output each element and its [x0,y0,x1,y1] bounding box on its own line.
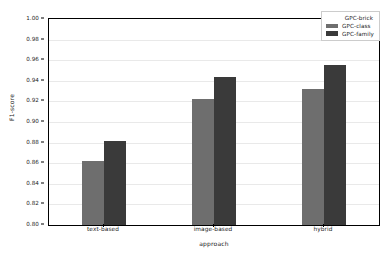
x-tick-mark [103,224,104,227]
x-axis-label: approach [48,240,380,247]
y-tick-label: 1.00 [26,15,39,21]
x-axis-ticks: text-basedimage-basedhybrid [48,226,380,238]
bar-gpc-class-hybrid [302,89,324,225]
y-tick-label: 0.86 [26,159,39,165]
plot-area [48,18,380,226]
y-tick-mark [41,59,44,60]
y-tick-mark [41,100,44,101]
x-tick-mark [323,224,324,227]
bar-gpc-class-image-based [192,99,214,225]
y-tick-label: 0.90 [26,118,39,124]
y-tick-label: 0.92 [26,97,39,103]
legend-label: GPC-class [342,23,370,29]
y-tick-label: 0.96 [26,56,39,62]
y-tick-label: 0.82 [26,200,39,206]
y-tick-mark [41,79,44,80]
legend-item-gpc-family: GPC-family [326,31,374,37]
bar-gpc-family-image-based [214,77,236,225]
y-tick-mark [41,203,44,204]
legend: GPC-brick GPC-classGPC-family [321,11,380,41]
bar-chart-figure: 0.800.820.840.860.880.900.920.940.960.98… [0,0,386,260]
y-tick-label: 0.94 [26,77,39,83]
legend-label: GPC-family [342,31,374,37]
y-tick-mark [41,38,44,39]
y-tick-mark [41,121,44,122]
bar-gpc-class-text-based [82,161,104,225]
legend-entries: GPC-classGPC-family [326,23,374,37]
legend-swatch-icon [326,24,338,29]
y-tick-label: 0.84 [26,180,39,186]
y-tick-label: 0.80 [26,221,39,227]
y-axis-label: F1-score [8,94,15,121]
bar-gpc-family-hybrid [324,65,346,225]
legend-item-gpc-class: GPC-class [326,23,374,29]
x-tick-mark [213,224,214,227]
gridline [49,60,379,61]
y-axis-ticks: 0.800.820.840.860.880.900.920.940.960.98… [0,18,44,224]
y-tick-mark [41,224,44,225]
y-tick-mark [41,141,44,142]
bar-gpc-family-text-based [104,141,126,225]
y-tick-label: 0.98 [26,36,39,42]
y-tick-label: 0.88 [26,139,39,145]
y-tick-mark [41,182,44,183]
y-tick-mark [41,18,44,19]
legend-swatch-icon [326,31,338,36]
y-tick-mark [41,162,44,163]
legend-title: GPC-brick [326,15,374,21]
